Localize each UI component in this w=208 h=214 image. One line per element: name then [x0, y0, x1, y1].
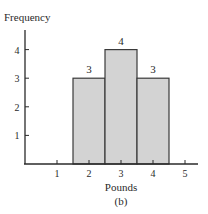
x-tick-label: 3	[119, 168, 124, 179]
y-axis-label: Frequency	[4, 11, 51, 23]
bar-value-label: 3	[86, 63, 92, 75]
x-tick-label: 4	[151, 168, 156, 179]
bar-value-label: 3	[150, 63, 156, 75]
histogram-bar	[137, 78, 169, 164]
x-tick-label: 5	[183, 168, 188, 179]
y-tick-label: 3	[15, 73, 20, 84]
figure-caption: (b)	[115, 195, 128, 208]
y-tick-label: 2	[15, 102, 20, 113]
histogram-bar	[73, 78, 105, 164]
y-tick-label: 4	[15, 45, 20, 56]
x-tick-label: 2	[87, 168, 92, 179]
x-tick-label: 1	[55, 168, 60, 179]
y-axis-ticks: 1234	[15, 45, 30, 142]
histogram-chart: 343 1234 12345 Frequency Pounds (b)	[0, 0, 208, 214]
x-axis-label: Pounds	[105, 181, 137, 193]
bar-value-label: 4	[118, 35, 124, 47]
y-tick-label: 1	[15, 130, 20, 141]
histogram-bar	[105, 50, 137, 164]
